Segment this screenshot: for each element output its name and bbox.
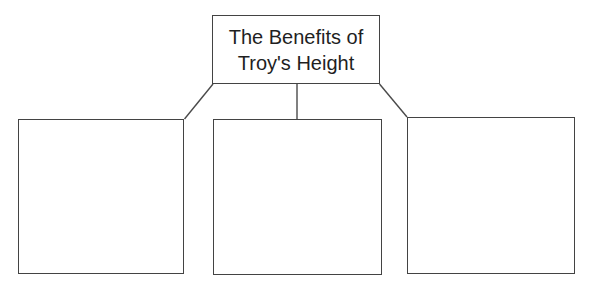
title-box: The Benefits of Troy's Height [212, 15, 380, 84]
benefit-box-left [18, 119, 184, 274]
connector-right-diagonal [380, 84, 408, 117]
graphic-organizer-diagram: The Benefits of Troy's Height [0, 0, 592, 292]
title-text: The Benefits of Troy's Height [216, 24, 376, 76]
connector-left-diagonal [185, 84, 214, 119]
benefit-box-middle [213, 119, 382, 275]
benefit-box-right [407, 117, 575, 274]
